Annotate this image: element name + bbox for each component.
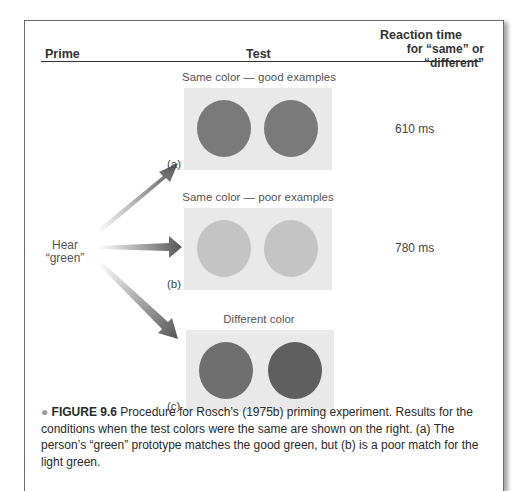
condition-a-reaction-time: 610 ms <box>395 122 434 136</box>
condition-a-right-circle <box>264 100 318 157</box>
condition-c-panel <box>186 330 334 412</box>
prime-label: Hear “green” <box>35 239 95 265</box>
condition-b-panel <box>184 208 332 290</box>
condition-a-letter: (a) <box>167 158 181 170</box>
condition-c-left-circle <box>199 342 253 399</box>
arrow-to-c <box>99 262 178 339</box>
condition-b-reaction-time: 780 ms <box>395 241 434 255</box>
prime-line2: “green” <box>35 252 95 265</box>
figure-caption: ● FIGURE 9.6 Procedure for Rosch’s (1975… <box>41 404 491 470</box>
condition-b-left-circle <box>197 220 251 277</box>
condition-c-label: Different color <box>159 313 359 325</box>
condition-c-right-circle <box>268 342 322 399</box>
condition-b-letter: (b) <box>167 278 181 290</box>
caption-figure-number: FIGURE 9.6 <box>52 405 117 419</box>
condition-b-label: Same color — poor examples <box>158 191 358 203</box>
condition-a-label: Same color — good examples <box>159 71 359 83</box>
condition-b-right-circle <box>264 220 318 277</box>
caption-bullet: ● <box>41 405 48 419</box>
arrow-to-b <box>98 236 182 258</box>
condition-a-left-circle <box>197 100 251 157</box>
condition-a-panel <box>184 88 332 170</box>
